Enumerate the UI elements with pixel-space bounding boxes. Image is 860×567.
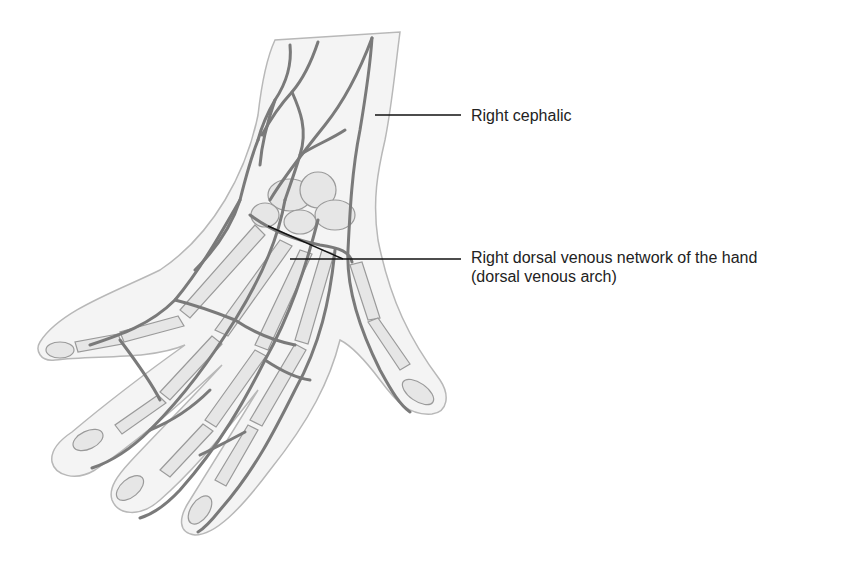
label-dorsal-venous-network: Right dorsal venous network of the hand …	[471, 248, 757, 286]
hand-skin-outline	[38, 32, 446, 535]
label-dorsal-venous-network-line1: Right dorsal venous network of the hand	[471, 248, 757, 267]
label-dorsal-venous-network-line2: (dorsal venous arch)	[471, 267, 757, 286]
label-right-cephalic-text: Right cephalic	[471, 107, 572, 124]
label-right-cephalic: Right cephalic	[471, 106, 572, 125]
